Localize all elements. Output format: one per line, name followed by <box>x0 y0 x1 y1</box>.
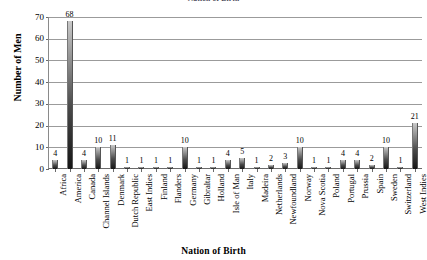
x-tick-mark <box>400 169 401 172</box>
x-tick-mark <box>257 169 258 172</box>
bar-value-label: 4 <box>53 150 57 158</box>
bar-slot: 10 <box>379 17 393 169</box>
x-tick-mark <box>328 169 329 172</box>
y-tick-label: 70 <box>18 13 44 22</box>
bar-slot: 1 <box>249 17 263 169</box>
x-tick: America <box>62 169 76 239</box>
bar <box>81 160 87 169</box>
bar-value-label: 68 <box>66 11 74 19</box>
bar-value-label: 10 <box>296 137 304 145</box>
x-tick: Prussia <box>350 169 364 239</box>
bar-value-label: 1 <box>326 157 330 165</box>
bar <box>412 123 418 169</box>
x-tick-mark <box>170 169 171 172</box>
bar <box>182 147 188 169</box>
x-tick-mark <box>98 169 99 172</box>
bar <box>225 160 231 169</box>
bar-slot: 4 <box>350 17 364 169</box>
bar <box>67 21 73 169</box>
bar <box>52 160 58 169</box>
bar <box>354 160 360 169</box>
bar-slot: 21 <box>408 17 422 169</box>
bar-slot: 10 <box>293 17 307 169</box>
bar-value-label: 10 <box>94 137 102 145</box>
bar-slot: 1 <box>206 17 220 169</box>
x-tick: Holland <box>206 169 220 239</box>
x-tick-mark <box>386 169 387 172</box>
bar-slot: 10 <box>91 17 105 169</box>
x-tick-mark <box>113 169 114 172</box>
y-tick-label: 20 <box>18 121 44 130</box>
bar-series: 468410111111101145123101144210121 <box>48 17 422 169</box>
x-tick: Portugal <box>336 169 350 239</box>
x-tick-mark <box>271 169 272 172</box>
x-tick-mark <box>84 169 85 172</box>
x-tick-mark <box>357 169 358 172</box>
bar-value-label: 1 <box>312 157 316 165</box>
y-tick-label: 60 <box>18 34 44 43</box>
bar-value-label: 1 <box>255 157 259 165</box>
bar-slot: 68 <box>62 17 76 169</box>
bar-slot: 3 <box>278 17 292 169</box>
bar-value-label: 1 <box>398 157 402 165</box>
x-tick-mark <box>314 169 315 172</box>
y-tick-label: 0 <box>18 165 44 174</box>
bar-value-label: 1 <box>125 157 129 165</box>
bar-value-label: 1 <box>139 157 143 165</box>
bar <box>95 147 101 169</box>
chart-title: Nation of Birth <box>0 0 427 1</box>
bar-value-label: 4 <box>226 150 230 158</box>
x-tick: Finland <box>149 169 163 239</box>
x-tick: East Indies <box>134 169 148 239</box>
bar-slot: 2 <box>264 17 278 169</box>
y-axis-ticks: 010203040506070 <box>14 17 44 169</box>
x-tick-mark <box>127 169 128 172</box>
x-tick: Italy <box>235 169 249 239</box>
x-tick-mark <box>213 169 214 172</box>
bar <box>110 145 116 169</box>
x-tick-mark <box>242 169 243 172</box>
x-tick-mark <box>70 169 71 172</box>
bar-value-label: 2 <box>269 155 273 163</box>
bar-slot: 10 <box>177 17 191 169</box>
y-tick-label: 40 <box>18 78 44 87</box>
bar-value-label: 1 <box>197 157 201 165</box>
x-tick: Norway <box>293 169 307 239</box>
bar-slot: 1 <box>134 17 148 169</box>
x-tick-mark <box>343 169 344 172</box>
bar-slot: 2 <box>364 17 378 169</box>
bar-value-label: 1 <box>154 157 158 165</box>
bar-slot: 1 <box>163 17 177 169</box>
x-tick-mark <box>300 169 301 172</box>
bar <box>297 147 303 169</box>
bar-value-label: 10 <box>382 137 390 145</box>
bar-slot: 4 <box>221 17 235 169</box>
x-tick-mark <box>372 169 373 172</box>
x-tick: West Indies <box>408 169 422 239</box>
bar <box>340 160 346 169</box>
bar-slot: 1 <box>393 17 407 169</box>
x-tick: Newfoundland <box>278 169 292 239</box>
x-tick-label: West Indies <box>419 174 427 214</box>
bar-value-label: 1 <box>211 157 215 165</box>
bar-value-label: 11 <box>109 135 117 143</box>
x-tick: Spain <box>364 169 378 239</box>
bar-value-label: 10 <box>181 137 189 145</box>
x-tick: Germany <box>177 169 191 239</box>
x-tick: Poland <box>321 169 335 239</box>
bar-value-label: 1 <box>168 157 172 165</box>
y-tick-label: 10 <box>18 143 44 152</box>
x-tick-mark <box>228 169 229 172</box>
bar-slot: 4 <box>48 17 62 169</box>
bar-slot: 1 <box>149 17 163 169</box>
x-tick-mark <box>55 169 56 172</box>
x-tick: Gibraltar <box>192 169 206 239</box>
x-tick: Dutch Republic <box>120 169 134 239</box>
x-tick-mark <box>199 169 200 172</box>
x-axis-title: Nation of Birth <box>0 246 427 256</box>
bar-value-label: 5 <box>240 148 244 156</box>
x-tick-mark <box>415 169 416 172</box>
x-tick: Canada <box>77 169 91 239</box>
x-tick: Africa <box>48 169 62 239</box>
bar-slot: 4 <box>77 17 91 169</box>
